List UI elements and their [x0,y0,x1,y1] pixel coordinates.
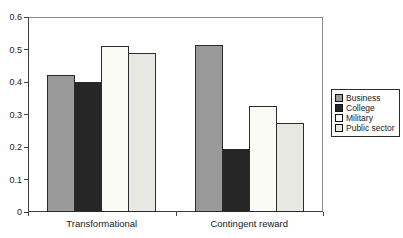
y-axis-tick [24,49,28,50]
bar-college-transformational [74,82,102,212]
legend-label: Military [346,113,373,123]
legend-swatch-icon [335,104,343,112]
y-tick-label: 0.1 [0,175,22,185]
bar-military-contingent-reward [249,106,277,212]
legend-swatch-icon [335,124,343,132]
x-category-label: Transformational [66,218,137,229]
legend-item: Public sector [335,123,395,133]
y-tick-label: 0.4 [0,77,22,87]
bar-business-contingent-reward [195,45,223,212]
y-axis-tick [24,179,28,180]
legend-swatch-icon [335,114,343,122]
bar-military-transformational [101,46,129,212]
bar-chart-figure: BusinessCollegeMilitaryPublic sector 00.… [0,0,403,238]
x-category-label: Contingent reward [210,218,288,229]
y-axis-tick [24,17,28,18]
x-axis-tick [323,212,324,216]
bar-public-sector-transformational [128,53,156,212]
legend-label: College [346,103,375,113]
y-tick-label: 0 [0,207,22,217]
y-axis-tick [24,114,28,115]
y-tick-label: 0.5 [0,45,22,55]
legend-item: College [335,103,395,113]
legend-label: Public sector [346,123,395,133]
bar-business-transformational [47,75,75,212]
y-tick-label: 0.2 [0,142,22,152]
legend: BusinessCollegeMilitaryPublic sector [331,89,400,137]
legend-swatch-icon [335,94,343,102]
y-tick-label: 0.3 [0,110,22,120]
bar-college-contingent-reward [222,149,250,212]
x-axis-tick [176,212,177,216]
y-axis-tick [24,82,28,83]
legend-item: Military [335,113,395,123]
y-axis-tick [24,147,28,148]
y-tick-label: 0.6 [0,12,22,22]
x-axis-tick [28,212,29,216]
legend-item: Business [335,93,395,103]
legend-label: Business [346,93,381,103]
bar-public-sector-contingent-reward [276,123,304,212]
